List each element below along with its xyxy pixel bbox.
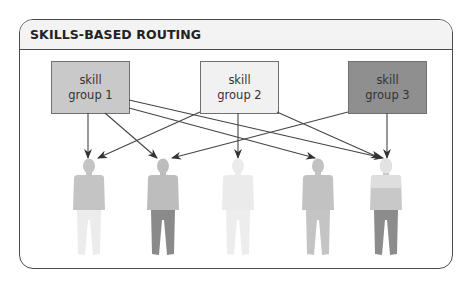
agents-layer [20,20,452,268]
diagram-frame: SKILLS-BASED ROUTING skill group 1 skill… [19,19,453,269]
agent-3-figure [222,159,254,256]
agent-1-figure [73,159,105,256]
agent-4-figure [302,159,334,256]
agent-5-figure [370,159,402,256]
agent-2-figure [147,159,179,256]
